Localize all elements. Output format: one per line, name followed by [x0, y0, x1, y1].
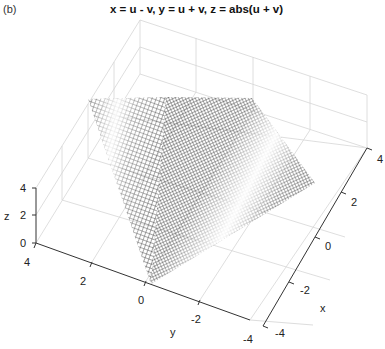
x-tick: 2 [351, 196, 357, 208]
z-tick: 4 [20, 182, 26, 194]
surface [88, 97, 315, 284]
z-tick: 0 [20, 237, 26, 249]
z-tick-labels: 4 2 0 z [4, 182, 26, 249]
y-tick: -4 [243, 333, 253, 345]
y-tick: -2 [191, 313, 201, 325]
x-tick: -2 [300, 284, 310, 296]
x-tick: -4 [275, 327, 285, 339]
z-axis-label: z [4, 210, 10, 222]
x-axis-label: x [320, 302, 326, 314]
x-tick: 4 [377, 153, 383, 165]
x-tick: 0 [325, 240, 331, 252]
y-tick: 0 [138, 294, 144, 306]
z-tick: 2 [20, 209, 26, 221]
y-axis-label: y [170, 326, 176, 338]
plot-3d: 4 2 0 z 4 2 0 -2 -4 y -4 -2 0 2 4 x [0, 0, 385, 349]
y-tick-labels: 4 2 0 -2 -4 y [24, 256, 253, 345]
y-tick: 4 [24, 256, 30, 268]
y-tick: 2 [80, 275, 86, 287]
